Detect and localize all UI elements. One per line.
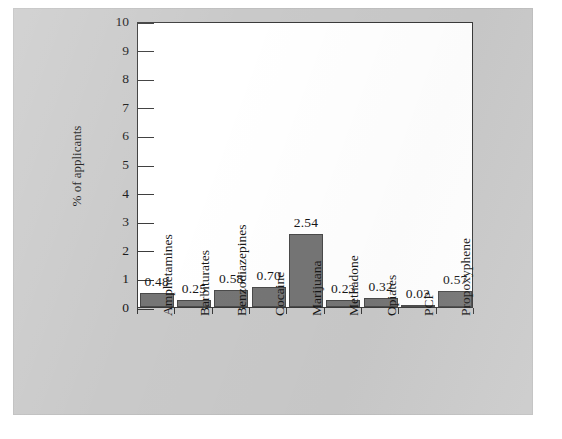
x-axis-tick: [361, 308, 362, 314]
y-axis-tick-label: 5: [95, 158, 129, 172]
y-axis-tick-label: 9: [95, 44, 129, 58]
x-axis-category-label: Opiates: [385, 275, 399, 316]
x-axis-tick: [212, 308, 213, 314]
bars-layer: 0.480.250.580.702.540.230.320.020.57: [138, 23, 472, 307]
x-axis-tick: [473, 308, 474, 314]
x-axis-category-label: Propoxyphene: [459, 238, 473, 316]
y-axis-tick-label: 4: [95, 187, 129, 201]
x-axis-category-label: Methadone: [347, 255, 361, 316]
y-axis-title: % of applicants: [69, 96, 85, 236]
y-axis-tick-label: 1: [95, 272, 129, 286]
y-axis-tick-label: 6: [95, 129, 129, 143]
x-axis-category-label: Benzodiazepines: [235, 225, 249, 316]
plot-area: 0.480.250.580.702.540.230.320.020.57: [137, 22, 473, 308]
x-axis-category-label: Marijuana: [310, 261, 324, 316]
bar-value-label: 0.57: [425, 272, 485, 288]
y-axis-tick-label: 0: [95, 301, 129, 315]
x-axis-tick: [436, 308, 437, 314]
x-axis-category-label: Cocaine: [273, 272, 287, 316]
scanned-page-panel: % of applicants 0.480.250.580.702.540.23…: [13, 8, 533, 415]
y-axis-tick-label: 8: [95, 72, 129, 86]
x-axis-category-label: PCP: [422, 292, 436, 316]
y-axis-tick: [138, 309, 154, 310]
x-axis-tick: [137, 308, 138, 314]
y-axis-tick-label: 3: [95, 215, 129, 229]
x-axis-category-label: Barbiturates: [198, 250, 212, 316]
bar-chart-figure: % of applicants 0.480.250.580.702.540.23…: [13, 8, 533, 415]
y-axis-tick-label: 10: [95, 15, 129, 29]
bar-value-label: 2.54: [276, 215, 336, 231]
x-axis-category-label: Amphetamines: [161, 234, 175, 316]
x-axis-tick: [249, 308, 250, 314]
x-axis-tick: [324, 308, 325, 314]
y-axis-tick-label: 2: [95, 244, 129, 258]
y-axis-tick-label: 7: [95, 101, 129, 115]
